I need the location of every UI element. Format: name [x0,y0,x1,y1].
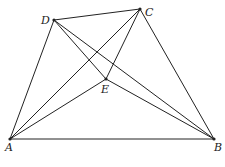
segment-DC [54,9,140,20]
point-E [104,77,107,80]
geometry-diagram: A B C D E [0,0,225,167]
segment-AE [10,79,106,139]
label-A: A [4,141,13,154]
segment-AD [10,20,54,139]
segment-CB [140,9,214,139]
label-B: B [213,141,222,154]
labels: A B C D E [4,6,222,154]
label-C: C [145,6,154,19]
segment-EB [106,79,214,139]
point-C [138,7,141,10]
segment-DE [54,20,106,79]
segments [10,9,214,139]
label-D: D [40,14,50,27]
label-E: E [100,83,109,96]
segment-DB [54,20,214,139]
segment-AC [10,9,140,139]
segment-EC [106,9,140,79]
point-D [52,18,55,21]
